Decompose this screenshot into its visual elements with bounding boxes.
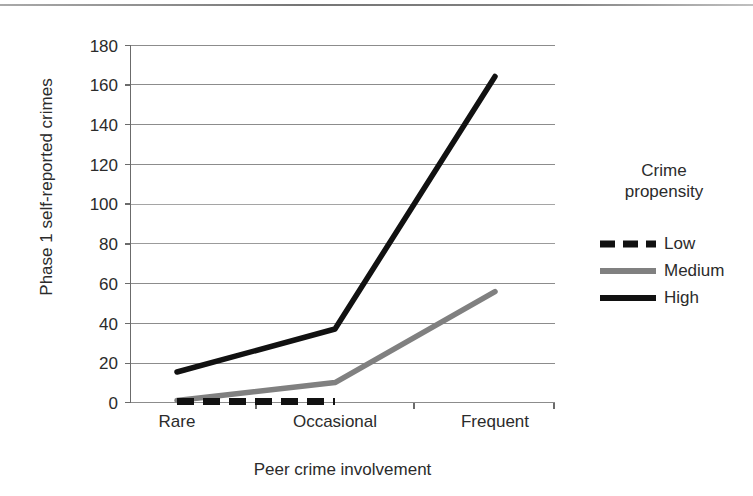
- legend-label-high: High: [664, 288, 699, 308]
- legend-item-low[interactable]: Low: [600, 231, 745, 258]
- series-line-high: [177, 77, 495, 373]
- y-tick-label-120: 120: [56, 157, 118, 174]
- plot-area: [130, 45, 555, 403]
- legend-label-low: Low: [664, 234, 695, 254]
- chart-canvas: [130, 45, 555, 403]
- legend-title-line-2: propensity: [600, 181, 728, 202]
- y-tick-label-0: 0: [56, 395, 118, 412]
- legend-label-medium: Medium: [664, 261, 724, 281]
- x-tick-label-occasional: Occasional: [255, 413, 415, 430]
- legend-items: Low Medium High: [600, 231, 745, 312]
- legend-title: Crime propensity: [600, 160, 728, 203]
- legend-swatch-low-icon: [600, 237, 656, 251]
- figure-container: Phase 1 self-reported crimes 180 160 140…: [0, 0, 753, 496]
- x-tick-label-frequent: Frequent: [415, 413, 575, 430]
- y-tick-label-100: 100: [56, 196, 118, 213]
- page-top-border: [0, 4, 753, 6]
- legend-item-medium[interactable]: Medium: [600, 258, 745, 285]
- gridlines: [130, 46, 555, 403]
- y-tick-label-60: 60: [56, 276, 118, 293]
- y-tick-label-140: 140: [56, 117, 118, 134]
- y-axis-title: Phase 1 self-reported crimes: [37, 22, 57, 352]
- legend-item-high[interactable]: High: [600, 285, 745, 312]
- legend: Crime propensity Low Medium: [600, 160, 745, 312]
- x-axis-ticks: [256, 403, 554, 410]
- y-tick-label-40: 40: [56, 316, 118, 333]
- x-tick-label-rare: Rare: [97, 413, 257, 430]
- y-tick-label-80: 80: [56, 236, 118, 253]
- x-axis-title: Peer crime involvement: [130, 460, 555, 480]
- y-tick-label-180: 180: [56, 38, 118, 55]
- legend-swatch-high-icon: [600, 291, 656, 305]
- y-axis-ticks: [125, 46, 131, 403]
- series-line-medium: [177, 292, 495, 401]
- y-tick-label-160: 160: [56, 77, 118, 94]
- legend-swatch-medium-icon: [600, 264, 656, 278]
- legend-title-line-1: Crime: [600, 160, 728, 181]
- y-tick-label-20: 20: [56, 355, 118, 372]
